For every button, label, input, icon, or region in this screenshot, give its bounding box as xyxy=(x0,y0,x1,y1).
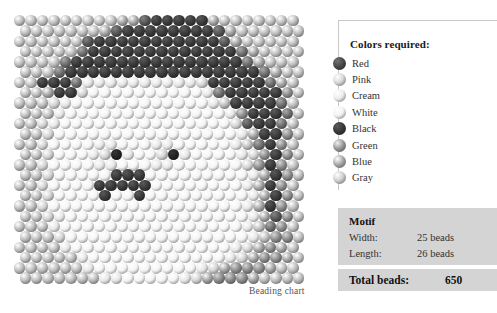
bead[interactable] xyxy=(213,272,224,283)
bead-swatch-icon xyxy=(333,73,346,86)
bead-row xyxy=(14,159,304,169)
bead-row xyxy=(14,139,304,149)
bead[interactable] xyxy=(168,272,179,283)
bead-swatch-icon xyxy=(333,122,346,135)
bead-row xyxy=(14,128,304,138)
legend-title: Colors required: xyxy=(350,38,430,50)
bead-row xyxy=(14,25,304,35)
legend-item-label: Red xyxy=(352,58,369,69)
bead-swatch-icon xyxy=(333,171,346,184)
bead-swatch-icon xyxy=(333,155,346,168)
bead-swatch-icon xyxy=(333,139,346,152)
bead-row xyxy=(14,190,304,200)
motif-title: Motif xyxy=(338,215,497,227)
bead-row xyxy=(14,242,304,252)
total-beads-box: Total beads: 650 xyxy=(338,269,497,291)
bead-row xyxy=(14,221,304,231)
bead-row xyxy=(14,231,304,241)
bead[interactable] xyxy=(77,272,88,283)
bead[interactable] xyxy=(65,272,76,283)
bead[interactable] xyxy=(20,272,31,283)
legend-item-label: Blue xyxy=(352,156,372,167)
beading-chart-caption: Beading chart xyxy=(249,286,305,296)
bead-row xyxy=(14,15,304,25)
bead[interactable] xyxy=(282,272,293,283)
bead[interactable] xyxy=(156,272,167,283)
bead[interactable] xyxy=(54,272,65,283)
bead-swatch-icon xyxy=(333,106,346,119)
bead-row xyxy=(14,169,304,179)
bead-row xyxy=(14,200,304,210)
motif-length-row: Length: 26 beads xyxy=(338,246,497,262)
motif-length-value: 26 beads xyxy=(417,247,497,261)
legend-item-white[interactable]: White xyxy=(332,104,380,120)
bead-row xyxy=(14,149,304,159)
motif-info-box: Motif Width: 25 beads Length: 26 beads xyxy=(338,208,497,268)
bead[interactable] xyxy=(191,272,202,283)
bead[interactable] xyxy=(270,272,281,283)
bead[interactable] xyxy=(248,272,259,283)
legend-item-cream[interactable]: Cream xyxy=(332,88,380,104)
bead[interactable] xyxy=(259,272,270,283)
bead[interactable] xyxy=(225,272,236,283)
bead[interactable] xyxy=(179,272,190,283)
bead-swatch-icon xyxy=(333,89,346,102)
beading-chart-panel: Beading chart xyxy=(0,0,330,313)
bead-row xyxy=(14,87,304,97)
bead-row xyxy=(14,118,304,128)
legend-item-red[interactable]: Red xyxy=(332,55,380,71)
legend-list: RedPinkCreamWhiteBlackGreenBlueGray xyxy=(332,55,380,186)
bead-row xyxy=(14,262,304,272)
header-divider-horizontal xyxy=(338,20,497,21)
bead[interactable] xyxy=(31,272,42,283)
total-beads-value: 650 xyxy=(445,274,462,286)
bead[interactable] xyxy=(236,272,247,283)
legend-item-gray[interactable]: Gray xyxy=(332,170,380,186)
legend-item-label: Green xyxy=(352,140,378,151)
legend-item-label: Pink xyxy=(352,74,371,85)
bead[interactable] xyxy=(145,272,156,283)
bead-row xyxy=(14,36,304,46)
bead-grid[interactable] xyxy=(14,15,304,283)
bead[interactable] xyxy=(122,272,133,283)
motif-width-row: Width: 25 beads xyxy=(338,230,497,246)
bead-row xyxy=(14,77,304,87)
bead-row xyxy=(14,97,304,107)
bead-row xyxy=(14,252,304,262)
bead[interactable] xyxy=(293,272,304,283)
motif-width-label: Width: xyxy=(349,231,417,245)
bead-row xyxy=(14,211,304,221)
motif-width-value: 25 beads xyxy=(417,231,497,245)
legend-item-label: White xyxy=(352,107,378,118)
bead[interactable] xyxy=(99,272,110,283)
bead-row xyxy=(14,108,304,118)
bead-row xyxy=(14,46,304,56)
total-beads-label: Total beads: xyxy=(338,274,445,286)
legend-item-label: Black xyxy=(352,123,377,134)
legend-item-green[interactable]: Green xyxy=(332,137,380,153)
bead[interactable] xyxy=(88,272,99,283)
motif-length-label: Length: xyxy=(349,247,417,261)
bead-swatch-icon xyxy=(333,57,346,70)
bead[interactable] xyxy=(202,272,213,283)
bead[interactable] xyxy=(111,272,122,283)
bead-row xyxy=(14,56,304,66)
legend-item-black[interactable]: Black xyxy=(332,121,380,137)
bead[interactable] xyxy=(42,272,53,283)
legend-item-pink[interactable]: Pink xyxy=(332,71,380,87)
legend-item-label: Gray xyxy=(352,172,373,183)
bead-row xyxy=(14,180,304,190)
bead-row xyxy=(14,272,304,282)
legend-item-blue[interactable]: Blue xyxy=(332,153,380,169)
bead[interactable] xyxy=(134,272,145,283)
bead-row xyxy=(14,66,304,76)
legend-item-label: Cream xyxy=(352,90,380,101)
